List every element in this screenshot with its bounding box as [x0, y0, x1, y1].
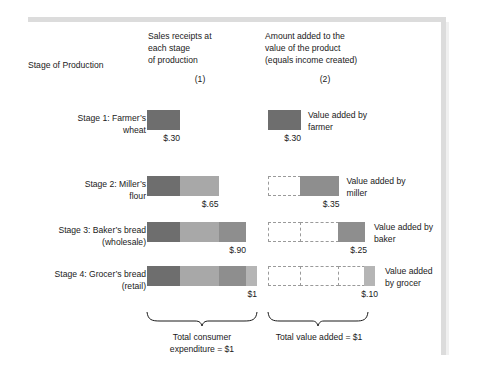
receipts-amount-stage-2: $.65: [175, 199, 219, 209]
value-added-placeholder-miller: [300, 266, 339, 286]
brace-column-1: [146, 311, 258, 327]
value-added-placeholder-baker: [338, 266, 366, 286]
receipts-segment-baker: [219, 222, 247, 242]
frame-top-rule: [28, 17, 446, 22]
receipts-segment-miller: [180, 266, 219, 286]
receipts-amount-stage-1: $.30: [136, 133, 180, 143]
brace-column-2: [267, 311, 369, 327]
value-added-placeholder-farmer: [268, 222, 301, 242]
value-added-segment-baker: [338, 222, 366, 242]
receipts-bar-stage-1: [147, 110, 180, 130]
receipts-bar-stage-2: [147, 176, 219, 196]
total-consumer-expenditure-caption: Total consumer expenditure = $1: [146, 331, 258, 355]
receipts-amount-stage-3: $.90: [202, 245, 246, 255]
stage-label-3: Stage 3: Baker’s bread (wholesale): [18, 224, 146, 248]
figure-canvas: Stage of Production Sales receipts at ea…: [0, 0, 481, 379]
value-added-placeholder-farmer: [268, 176, 301, 196]
value-added-caption-stage-1: Value added by farmer: [308, 109, 475, 133]
receipts-segment-farmer: [147, 222, 180, 242]
header-column-1-number: (1): [148, 74, 252, 84]
value-added-bar-stage-3: [268, 222, 365, 242]
stage-label-2: Stage 2: Miller’s flour: [18, 178, 146, 202]
receipts-amount-stage-4: $1: [213, 289, 257, 299]
value-added-amount-stage-4: $.10: [334, 289, 378, 299]
receipts-segment-miller: [180, 176, 219, 196]
header-column-2-title: Amount added to the value of the product…: [265, 30, 415, 67]
receipts-bar-stage-4: [147, 266, 257, 286]
value-added-caption-stage-3: Value added by baker: [374, 221, 475, 245]
value-added-caption-stage-4: Value added by grocer: [385, 265, 475, 289]
stage-label-1: Stage 1: Farmer’s wheat: [18, 112, 146, 136]
value-added-amount-stage-1: $.30: [257, 133, 301, 143]
receipts-segment-farmer: [147, 110, 180, 130]
receipts-segment-farmer: [147, 266, 180, 286]
value-added-caption-stage-2: Value added by miller: [347, 175, 476, 199]
value-added-placeholder-farmer: [268, 266, 301, 286]
value-added-bar-stage-2: [268, 176, 339, 196]
header-stage-of-production: Stage of Production: [28, 60, 146, 72]
receipts-segment-baker: [219, 266, 247, 286]
value-added-segment-grocer: [364, 266, 375, 286]
header-column-1-title: Sales receipts at each stage of producti…: [148, 30, 252, 67]
receipts-segment-miller: [180, 222, 219, 242]
total-value-added-caption: Total value added = $1: [259, 331, 379, 343]
receipts-bar-stage-3: [147, 222, 246, 242]
receipts-segment-grocer: [246, 266, 257, 286]
value-added-amount-stage-3: $.25: [323, 245, 367, 255]
stage-label-4: Stage 4: Grocer’s bread (retail): [18, 268, 146, 292]
receipts-segment-farmer: [147, 176, 180, 196]
value-added-placeholder-miller: [300, 222, 339, 242]
value-added-bar-stage-1: [268, 110, 301, 130]
value-added-bar-stage-4: [268, 266, 375, 286]
value-added-segment-farmer: [268, 110, 301, 130]
header-column-2-number: (2): [265, 74, 385, 84]
value-added-segment-miller: [300, 176, 339, 196]
value-added-amount-stage-2: $.35: [296, 199, 340, 209]
